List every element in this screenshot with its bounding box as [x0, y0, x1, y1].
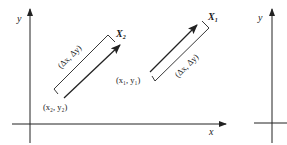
vector-1-delta-label: (Δx, Δy) — [172, 52, 200, 80]
right-coordinate-axes: y — [254, 9, 287, 143]
vector-1-start-label: (x₁, y₁) — [116, 75, 141, 85]
vector-1-group: X1 (Δx, Δy) (x₁, y₁) — [116, 11, 218, 85]
right-y-axis-label: y — [257, 12, 263, 23]
vector-2-point-label: X2 — [115, 28, 126, 40]
left-y-axis-label: y — [16, 13, 22, 24]
vector-2-group: X2 (Δx, Δy) (x₂, y₂) — [43, 28, 126, 112]
vector-1-point-label: X1 — [207, 11, 218, 23]
vector-2-delta-label: (Δx, Δy) — [55, 43, 83, 71]
vector-diagram: y x X2 (Δx, Δy) (x₂, y₂) X1 (Δx, Δy) (x₁… — [0, 0, 287, 145]
left-x-axis-label: x — [208, 126, 214, 137]
vector-2-start-label: (x₂, y₂) — [43, 102, 68, 112]
